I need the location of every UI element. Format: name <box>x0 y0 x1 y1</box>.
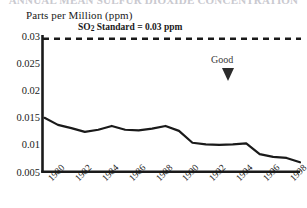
so2-trend-line <box>45 118 301 162</box>
chart-container: ANNUAL MEAN SULFUR DIOXIDE CONCENTRATION… <box>0 0 307 208</box>
plot-area <box>0 0 307 208</box>
axis-lines <box>41 35 300 173</box>
